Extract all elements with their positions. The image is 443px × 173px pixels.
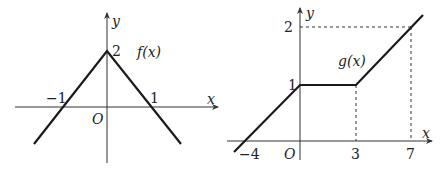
- f-tick-x-1: 1: [150, 90, 159, 106]
- g-tick-x-3: 3: [351, 146, 360, 162]
- graph-f: y x 2 f(x) −1 1 O: [15, 13, 218, 163]
- f-x-axis-label: x: [207, 91, 215, 107]
- g-origin-label: O: [284, 146, 296, 162]
- g-y-axis-label: y: [305, 5, 315, 21]
- graphs-svg: y x 2 f(x) −1 1 O y x 2 1 g(x) −4 O 3 7: [0, 0, 443, 173]
- g-curve: [234, 15, 423, 152]
- g-x-axis-label: x: [422, 125, 430, 141]
- f-origin-label: O: [92, 111, 104, 127]
- g-tick-x-neg4: −4: [239, 146, 260, 162]
- f-tick-x-neg1: −1: [46, 90, 67, 106]
- graph-g: y x 2 1 g(x) −4 O 3 7: [227, 5, 432, 162]
- g-tick-y-2: 2: [284, 19, 293, 35]
- g-tick-x-7: 7: [406, 146, 415, 162]
- f-y-axis-label: y: [111, 13, 121, 29]
- g-tick-y-1: 1: [288, 77, 297, 93]
- figure-canvas: y x 2 f(x) −1 1 O y x 2 1 g(x) −4 O 3 7: [0, 0, 443, 173]
- f-tick-y-2: 2: [112, 43, 121, 59]
- f-function-label: f(x): [136, 44, 161, 60]
- g-function-label: g(x): [338, 53, 366, 69]
